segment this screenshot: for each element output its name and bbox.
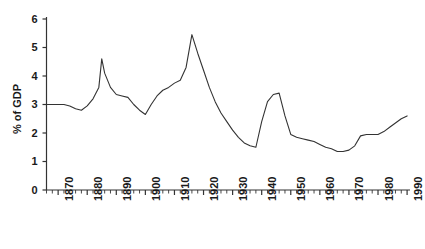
x-tick-label: 1980: [384, 177, 395, 201]
x-tick-label: 1940: [267, 177, 278, 201]
chart-container: % of GDP 0123456 18701880189019001910192…: [0, 0, 425, 249]
x-tick-label: 1950: [296, 177, 307, 201]
y-tick-label: 2: [22, 128, 38, 139]
chart-axes: [47, 17, 411, 190]
x-tick-label: 1960: [325, 177, 336, 201]
y-tick-label: 4: [22, 71, 38, 82]
x-tick-label: 1880: [93, 177, 104, 201]
chart-plot-area: [0, 0, 425, 249]
y-tick-label: 5: [22, 42, 38, 53]
x-tick-label: 1920: [209, 177, 220, 201]
y-tick-label: 3: [22, 99, 38, 110]
x-tick-label: 1990: [413, 177, 424, 201]
x-tick-label: 1930: [238, 177, 249, 201]
x-tick-label: 1970: [354, 177, 365, 201]
y-tick-label: 0: [22, 185, 38, 196]
x-tick-label: 1870: [64, 177, 75, 201]
chart-tick-marks: [43, 19, 408, 195]
x-tick-label: 1910: [180, 177, 191, 201]
x-tick-label: 1900: [151, 177, 162, 201]
y-tick-label: 1: [22, 156, 38, 167]
y-tick-label: 6: [22, 14, 38, 25]
data-series-line: [47, 35, 408, 152]
x-tick-label: 1890: [122, 177, 133, 201]
